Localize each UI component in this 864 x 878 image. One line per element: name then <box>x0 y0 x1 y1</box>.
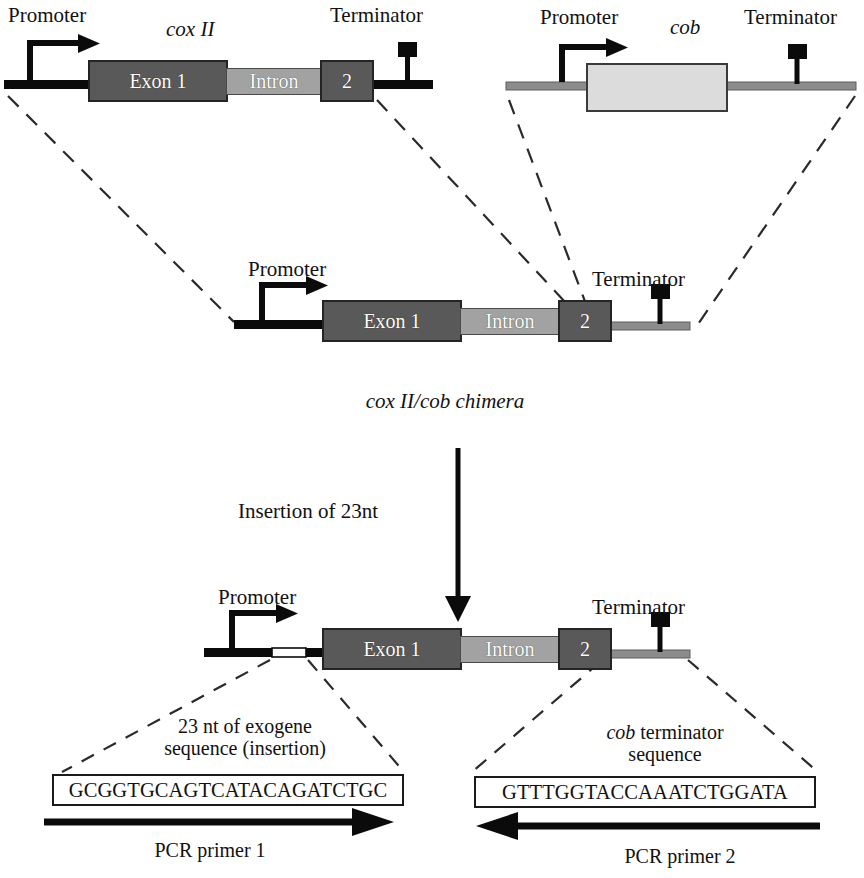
inserted-backbone-left-a <box>204 648 272 657</box>
insertion-process-arrow <box>445 448 471 622</box>
chimera-intron-label: Intron <box>486 310 535 333</box>
cox2-promoter-label: Promoter <box>8 4 86 27</box>
pcr-primer-1-label: PCR primer 1 <box>90 840 330 862</box>
cob-backbone-left <box>506 82 588 90</box>
inserted-exon2-label: 2 <box>580 638 590 661</box>
inserted-exon2-box[interactable]: 2 <box>558 628 612 670</box>
cob-orf-box[interactable] <box>586 63 728 112</box>
cox2-exon2-label: 2 <box>342 70 352 93</box>
left-callout-line1: 23 nt of exogene <box>120 716 370 738</box>
cox2-terminator-icon <box>398 42 417 82</box>
figure-canvas: Exon 1 Intron 2 Exon 1 Intron 2 Exon 1 I… <box>0 0 864 878</box>
chimera-exon2-box[interactable]: 2 <box>558 300 612 342</box>
cox2-intron-label: Intron <box>250 70 299 93</box>
cob-promoter-label: Promoter <box>540 6 618 29</box>
cob-terminator-sequence-box[interactable]: GTTTGGTACCAAATCTGGATA <box>474 776 816 808</box>
cox2-backbone-left <box>4 80 90 89</box>
cox2-gene-name: cox II <box>166 18 214 41</box>
cox2-terminator-label: Terminator <box>330 4 423 27</box>
inserted-backbone-right <box>610 650 690 658</box>
right-callout-line1: cob terminator <box>540 722 790 744</box>
chimera-backbone-left <box>234 320 322 329</box>
pcr-primer-2-arrow <box>476 812 820 840</box>
left-callout-text: 23 nt of exogene sequence (insertion) <box>120 716 370 759</box>
pcr-primer-1-arrow <box>44 808 394 836</box>
inserted-promoter-label: Promoter <box>218 586 296 609</box>
cox2-exon1-box[interactable]: Exon 1 <box>88 60 228 102</box>
cox2-exon2-box[interactable]: 2 <box>320 60 374 102</box>
chimera-promoter-label: Promoter <box>248 258 326 281</box>
leader-cob-right <box>694 96 855 330</box>
leader-cox2-left <box>8 96 234 322</box>
inserted-promoter-icon <box>232 604 298 648</box>
leader-cob-left <box>509 100 592 320</box>
cob-terminator-label: Terminator <box>744 6 837 29</box>
inserted-insertion-gap <box>272 648 306 657</box>
insertion-step-label: Insertion of 23nt <box>238 500 378 523</box>
chimera-exon2-label: 2 <box>580 310 590 333</box>
cob-terminator-icon <box>788 44 807 84</box>
right-callout-gene-name: cob <box>606 721 635 743</box>
cox2-exon1-label: Exon 1 <box>129 70 186 93</box>
inserted-terminator-label: Terminator <box>592 596 685 619</box>
chimera-backbone-right <box>610 322 690 330</box>
left-callout-line2: sequence (insertion) <box>120 738 370 760</box>
right-callout-text: cob terminator sequence <box>540 722 790 765</box>
cox2-backbone-right <box>371 80 433 89</box>
inserted-exon1-box[interactable]: Exon 1 <box>322 628 462 670</box>
chimera-promoter-icon <box>262 276 328 320</box>
cob-gene-name: cob <box>670 16 700 39</box>
cob-terminator-sequence-text: GTTTGGTACCAAATCTGGATA <box>502 781 788 804</box>
chimera-leader-lines <box>8 96 855 330</box>
cox2-intron-box[interactable]: Intron <box>226 68 322 95</box>
chimera-terminator-label: Terminator <box>592 268 685 291</box>
insertion-sequence-text: GCGGTGCAGTCATACAGATCTGC <box>69 779 387 802</box>
chimera-intron-box[interactable]: Intron <box>460 308 560 335</box>
inserted-exon1-label: Exon 1 <box>363 638 420 661</box>
inserted-intron-box[interactable]: Intron <box>460 636 560 663</box>
pcr-primer-arrows <box>44 808 820 840</box>
insertion-sequence-box[interactable]: GCGGTGCAGTCATACAGATCTGC <box>52 774 404 806</box>
chimera-caption: cox II/cob chimera <box>345 390 545 413</box>
leader-cox2-right <box>377 100 578 316</box>
pcr-primer-2-label: PCR primer 2 <box>560 846 800 868</box>
inserted-intron-label: Intron <box>486 638 535 661</box>
cob-backbone-right <box>726 82 856 90</box>
chimera-exon1-box[interactable]: Exon 1 <box>322 300 462 342</box>
right-callout-line1-rest: terminator <box>635 721 723 743</box>
chimera-exon1-label: Exon 1 <box>363 310 420 333</box>
right-callout-line2: sequence <box>540 744 790 766</box>
